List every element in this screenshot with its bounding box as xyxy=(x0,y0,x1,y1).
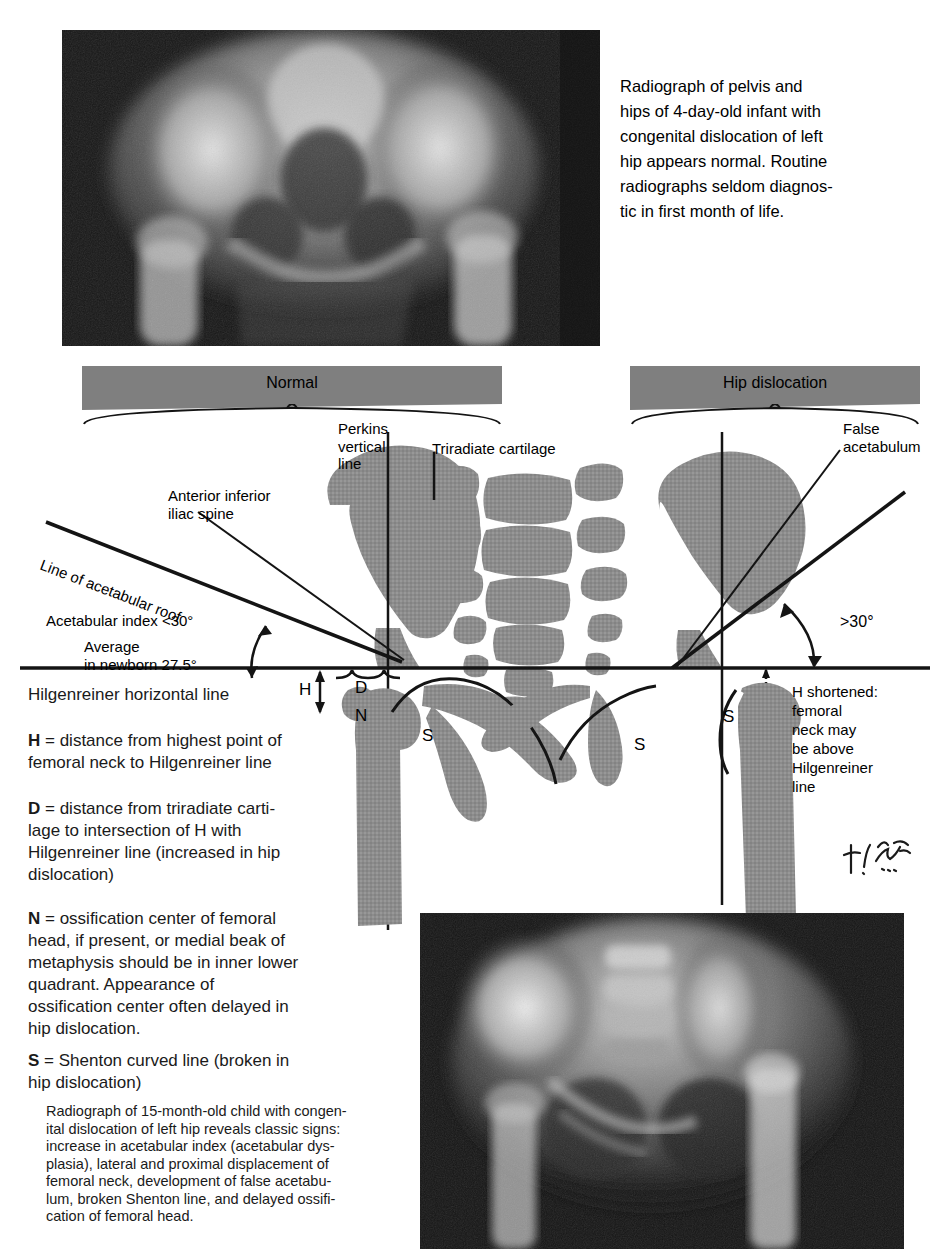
aiis-line-1: Anterior inferior xyxy=(168,487,328,505)
legend-h-line-2: femoral neck to Hilgenreiner line xyxy=(28,752,318,774)
h-shortened-line-2: femoral xyxy=(792,701,942,720)
marker-d: D xyxy=(355,678,367,698)
artist-signature xyxy=(838,825,928,885)
h-shortened-line-4: be above xyxy=(792,739,942,758)
legend-entry-h: H = distance from highest point of femor… xyxy=(28,730,318,774)
h-shortened-line-5: Hilgenreiner xyxy=(792,758,942,777)
legend-h-line-1: distance from highest point of xyxy=(60,731,282,750)
marker-h: H xyxy=(299,680,311,700)
right-ilium xyxy=(658,452,805,615)
legend-d-line-1: distance from triradiate carti- xyxy=(60,799,275,818)
false-acetabulum-label: False acetabulum xyxy=(843,420,949,455)
legend-entry-s: S = Shenton curved line (broken in hip d… xyxy=(28,1050,348,1094)
angle-dislocated-label: >30° xyxy=(840,613,874,631)
aiis-line-2: iliac spine xyxy=(168,505,328,523)
legend-s-line-2: hip dislocation) xyxy=(28,1072,348,1094)
anterior-inferior-iliac-spine-label: Anterior inferior iliac spine xyxy=(168,487,328,522)
legend-key-h: H xyxy=(28,731,40,750)
legend-n-line-4: quadrant. Appearance of xyxy=(28,974,348,996)
average-line-2: in newborn 27.5° xyxy=(84,656,264,674)
hilgenreiner-legend-title: Hilgenreiner horizontal line xyxy=(28,684,229,706)
legend-s-line-1: Shenton curved line (broken in xyxy=(59,1051,290,1070)
bottom-caption-line: lum, broken Shenton line, and delayed os… xyxy=(46,1191,426,1209)
legend-key-n: N xyxy=(28,909,40,928)
legend-entry-n: N = ossification center of femoral head,… xyxy=(28,908,348,1040)
legend-equals: = xyxy=(39,1051,58,1070)
legend-d-line-4: dislocation) xyxy=(28,864,328,886)
perkins-vertical-line-label: Perkins vertical line xyxy=(338,420,398,473)
legend-n-line-2: head, if present, or medial beak of xyxy=(28,930,348,952)
d-brace xyxy=(336,670,400,678)
legend-equals: = xyxy=(40,799,59,818)
marker-s-mid: S xyxy=(634,735,645,755)
legend-d-line-3: Hilgenreiner line (increased in hip xyxy=(28,842,328,864)
legend-n-line-5: ossification center often delayed in xyxy=(28,996,348,1018)
legend-equals: = xyxy=(40,909,59,928)
h-shortened-line-3: neck may xyxy=(792,720,942,739)
bottom-caption-line: ital dislocation of left hip reveals cla… xyxy=(46,1121,426,1139)
marker-n: N xyxy=(355,706,367,726)
h-shortened-label: H shortened: femoral neck may be above H… xyxy=(792,682,942,796)
legend-entry-d: D = distance from triradiate carti- lage… xyxy=(28,798,328,886)
legend-key-s: S xyxy=(28,1051,39,1070)
bottom-radiograph xyxy=(420,913,904,1249)
perkins-line-2: vertical xyxy=(338,438,398,456)
acetabular-index-label: Acetabular index <30° xyxy=(46,612,193,630)
bottom-caption-line: Radiograph of 15-month-old child with co… xyxy=(46,1103,426,1121)
legend-n-line-1: ossification center of femoral xyxy=(60,909,276,928)
bottom-radiograph-caption: Radiograph of 15-month-old child with co… xyxy=(46,1103,426,1226)
mid-ischium xyxy=(588,690,623,786)
legend-key-d: D xyxy=(28,799,40,818)
h-shortened-line-1: H shortened: xyxy=(792,682,942,701)
average-line-1: Average xyxy=(84,638,264,656)
legend-n-line-6: hip dislocation. xyxy=(28,1018,348,1040)
bottom-caption-line: increase in acetabular index (acetabular… xyxy=(46,1138,426,1156)
marker-s-dislocated: S xyxy=(723,707,734,727)
average-newborn-label: Average in newborn 27.5° xyxy=(84,638,264,673)
bottom-caption-line: plasia), lateral and proximal displaceme… xyxy=(46,1156,426,1174)
perkins-line-1: Perkins xyxy=(338,420,398,438)
bottom-radiograph-image xyxy=(420,913,904,1249)
perkins-line-3: line xyxy=(338,455,398,473)
legend-equals: = xyxy=(40,731,59,750)
legend-d-line-2: lage to intersection of H with xyxy=(28,820,328,842)
triradiate-cartilage-label: Triradiate cartilage xyxy=(432,440,556,458)
marker-s-normal: S xyxy=(422,726,433,746)
false-acetabulum-line-1: False xyxy=(843,420,949,438)
false-acetabulum-line-2: acetabulum xyxy=(843,438,949,456)
bottom-caption-line: femoral neck, development of false aceta… xyxy=(46,1173,426,1191)
legend-n-line-3: metaphysis should be in inner lower xyxy=(28,952,348,974)
h-shortened-line-6: line xyxy=(792,777,942,796)
bottom-caption-line: cation of femoral head. xyxy=(46,1208,426,1226)
